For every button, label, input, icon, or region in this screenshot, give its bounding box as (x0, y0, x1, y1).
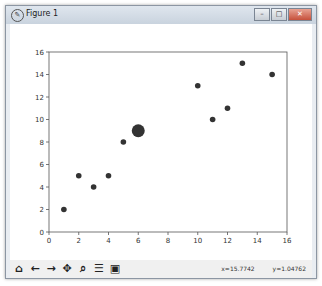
y-tick-label: 16 (35, 49, 44, 57)
x-tick-label: 16 (283, 237, 292, 245)
x-tick-label: 6 (136, 237, 141, 245)
data-point (106, 173, 112, 179)
home-icon[interactable]: ⌂ (12, 262, 26, 276)
y-tick-label: 4 (40, 184, 45, 192)
data-point (121, 139, 127, 145)
data-point (210, 117, 216, 123)
y-tick-label: 2 (40, 206, 44, 214)
y-tick-label: 10 (35, 116, 44, 124)
y-tick-label: 8 (40, 139, 44, 147)
save-icon[interactable]: ▣ (108, 262, 122, 276)
coord-x: x=15.7742 (221, 265, 254, 272)
data-point (91, 184, 97, 190)
title-bar[interactable]: ✎ Figure 1 – □ ✕ (6, 6, 316, 24)
data-point (240, 60, 246, 66)
minimize-button[interactable]: – (254, 8, 270, 21)
y-tick-label: 12 (35, 94, 44, 102)
x-tick-label: 12 (223, 237, 232, 245)
axes-frame (49, 52, 287, 232)
plot-canvas[interactable]: 02468101214160246810121416 (10, 24, 312, 260)
x-tick-label: 8 (166, 237, 170, 245)
y-tick-label: 6 (40, 161, 45, 169)
cursor-coordinates: x=15.7742 y=1.04762 (205, 265, 306, 272)
data-point (76, 173, 82, 179)
y-tick-label: 14 (35, 71, 44, 79)
navigation-toolbar: ⌂ ← → ✥ ⌕ ☰ ▣ x=15.7742 y=1.04762 (10, 260, 312, 278)
figure-window: ✎ Figure 1 – □ ✕ 02468101214160246810121… (5, 5, 317, 279)
x-tick-label: 0 (47, 237, 51, 245)
x-tick-label: 14 (253, 237, 262, 245)
pan-icon[interactable]: ✥ (60, 262, 74, 276)
x-tick-label: 2 (77, 237, 81, 245)
coord-y: y=1.04762 (273, 265, 306, 272)
data-point (195, 83, 201, 89)
window-title: Figure 1 (26, 9, 58, 18)
close-button[interactable]: ✕ (288, 8, 312, 21)
y-tick-label: 0 (40, 229, 44, 237)
forward-arrow-icon[interactable]: → (44, 262, 58, 276)
x-tick-label: 10 (193, 237, 202, 245)
data-point (225, 105, 231, 111)
figure-icon: ✎ (11, 9, 24, 22)
x-tick-label: 4 (106, 237, 111, 245)
maximize-button[interactable]: □ (271, 8, 287, 21)
zoom-icon[interactable]: ⌕ (76, 262, 90, 276)
data-point (269, 72, 275, 78)
configure-subplots-icon[interactable]: ☰ (92, 262, 106, 276)
data-point (61, 207, 67, 213)
scatter-plot: 02468101214160246810121416 (10, 24, 312, 260)
data-point (132, 124, 145, 137)
back-arrow-icon[interactable]: ← (28, 262, 42, 276)
